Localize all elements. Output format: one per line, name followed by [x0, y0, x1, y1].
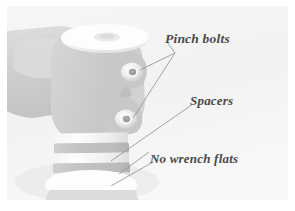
- callout-spacers: Spacers: [190, 94, 233, 107]
- upper-bolt-head: [129, 69, 136, 75]
- spacer-2-dark: [54, 142, 129, 153]
- upper-pinch-bolt: [121, 63, 143, 82]
- bicycle-stem-illustration: [7, 6, 288, 200]
- callout-pinch-bolts: Pinch bolts: [165, 32, 230, 46]
- lower-bolt-head: [123, 116, 130, 122]
- lower-pinch-bolt: [115, 110, 137, 129]
- annotated-photo-figure: Pinch bolts Spacers No wrench flats: [0, 0, 295, 211]
- head-tube: [43, 190, 141, 200]
- top-cap-bolt-head: [99, 34, 115, 40]
- spacer-1-light: [54, 132, 128, 143]
- photo-plate: Pinch bolts Spacers No wrench flats: [7, 6, 288, 200]
- callout-no-wrench-flats: No wrench flats: [150, 152, 238, 165]
- spacer-3-light: [53, 152, 129, 163]
